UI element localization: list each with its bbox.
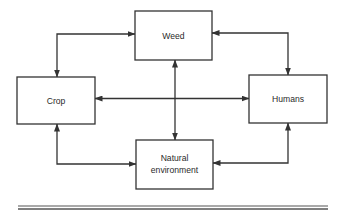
edge-weed-humans [212, 33, 288, 75]
edge-crop-natural [57, 124, 136, 164]
node-humans: Humans [249, 75, 327, 123]
interaction-diagram: Weed Crop Humans Natural environment [0, 0, 341, 212]
edge-crop-weed [57, 34, 135, 77]
node-weed-label: Weed [162, 31, 185, 41]
node-natural-label-line2: environment [151, 165, 199, 175]
node-weed: Weed [135, 11, 212, 60]
node-natural-label-line1: Natural [161, 153, 189, 163]
node-crop: Crop [17, 77, 95, 124]
edge-natural-humans [213, 123, 288, 163]
node-natural-environment: Natural environment [136, 140, 213, 189]
node-humans-label: Humans [272, 94, 304, 104]
node-crop-label: Crop [47, 96, 66, 106]
